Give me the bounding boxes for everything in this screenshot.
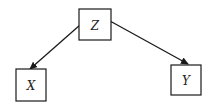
node-y-label: Y bbox=[182, 74, 191, 88]
node-x-label: X bbox=[26, 79, 36, 93]
node-y: Y bbox=[171, 65, 201, 95]
causal-diagram: Z X Y bbox=[0, 0, 214, 110]
edge-z-to-x bbox=[30, 25, 80, 69]
edge-z-to-y bbox=[110, 21, 188, 64]
node-x: X bbox=[16, 69, 46, 101]
node-z: Z bbox=[79, 9, 111, 40]
node-z-label: Z bbox=[90, 19, 100, 33]
